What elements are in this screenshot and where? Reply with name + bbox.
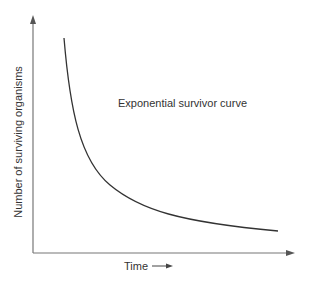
x-axis-arrow-icon [286, 250, 295, 256]
time-arrow-icon [152, 264, 173, 269]
curve-annotation: Exponential survivor curve [118, 97, 247, 109]
y-axis [30, 15, 36, 253]
x-axis [33, 250, 295, 256]
survivor-curve [64, 38, 278, 231]
y-axis-arrow-icon [30, 15, 36, 24]
x-axis-label: Time [124, 260, 148, 272]
y-axis-label: Number of surviving organisms [12, 66, 24, 218]
chart-canvas: Exponential survivor curve Number of sur… [0, 0, 310, 283]
